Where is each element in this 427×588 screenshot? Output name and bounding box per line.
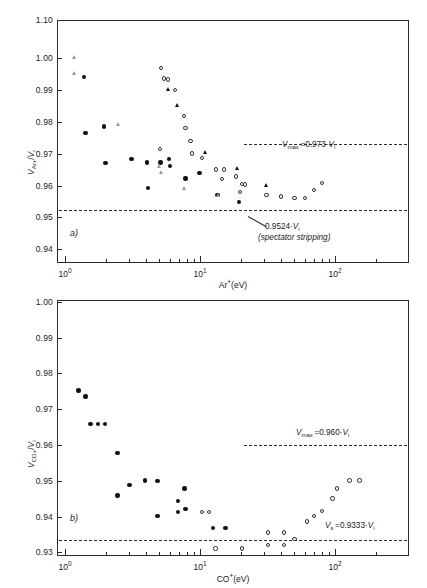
plot-frame-a: [57, 20, 409, 263]
data-point-a-open-circle-11: [222, 167, 226, 171]
data-point-a-filled-triangle-3: [235, 166, 239, 170]
data-point-b-filled-circle-16: [223, 526, 227, 530]
annotation-vs-b: Vs =0.9333·Vi: [325, 521, 374, 530]
data-point-a-open-triangle-5: [182, 186, 186, 190]
y-tick-b-7: [57, 552, 62, 553]
y-tick-label-a-7: 0.94: [9, 244, 53, 254]
y-tick-a-3: [57, 122, 62, 123]
data-point-a-open-circle-22: [320, 181, 324, 185]
data-point-a-filled-circle-4: [129, 157, 133, 161]
x-tick-b-15: [314, 552, 315, 556]
data-point-b-open-circle-4: [266, 530, 270, 534]
data-point-a-filled-triangle-4: [264, 183, 268, 187]
reference-line-b-Vs: [59, 540, 407, 541]
data-point-a-filled-circle-5: [145, 160, 149, 164]
y-tick-a-2: [57, 90, 62, 91]
x-tick-a-12: [281, 259, 282, 263]
x-tick-b-8: [194, 552, 195, 556]
data-point-a-open-circle-15: [243, 182, 247, 186]
x-tick-a-9: [200, 256, 201, 263]
x-tick-label-b-1: 101: [180, 560, 220, 572]
y-tick-label-b-2: 0.98: [9, 368, 53, 378]
x-tick-a-11: [264, 259, 265, 263]
y-tick-b-4: [57, 445, 62, 446]
x-tick-a-14: [305, 259, 306, 263]
y-tick-a-7: [57, 249, 62, 250]
data-point-a-open-triangle-2: [116, 122, 120, 126]
data-point-a-open-circle-16: [238, 190, 242, 194]
x-tick-a-16: [322, 259, 323, 263]
x-axis-title-b: CO+(eV): [183, 572, 283, 584]
x-tick-label-a-0: 100: [45, 267, 85, 279]
x-tick-a-20: [376, 259, 377, 263]
x-tick-a-6: [179, 259, 180, 263]
y-tick-label-a-3: 0.98: [9, 117, 53, 127]
data-point-a-open-triangle-4: [159, 170, 163, 174]
data-point-b-filled-circle-13: [182, 486, 186, 490]
reference-line-b-Vmax: [244, 445, 407, 446]
x-tick-b-14: [305, 552, 306, 556]
y-tick-b-1: [57, 338, 62, 339]
data-point-a-filled-circle-6: [146, 186, 150, 190]
data-point-a-filled-circle-3: [103, 161, 107, 165]
data-point-b-filled-circle-5: [115, 451, 119, 455]
data-point-b-filled-circle-0: [76, 388, 80, 392]
y-tick-b-5: [57, 481, 62, 482]
x-tick-a-2: [129, 259, 130, 263]
y-tick-b-0: [57, 302, 62, 303]
y-tick-a-4: [57, 154, 62, 155]
data-point-a-filled-triangle-0: [166, 87, 170, 91]
y-tick-label-a-5: 0.96: [9, 181, 53, 191]
x-tick-a-7: [187, 259, 188, 263]
data-point-a-open-circle-17: [264, 193, 268, 197]
y-tick-label-b-1: 0.99: [9, 333, 53, 343]
annotation-spectator-sub-a: (spectator stripping): [258, 233, 330, 242]
data-point-a-open-triangle-0: [72, 55, 76, 59]
annotation-vmax-b: Vmax =0.960·Vi: [296, 428, 349, 437]
y-tick-label-a-2: 0.99: [9, 85, 53, 95]
panel-letter-a: a): [70, 228, 78, 238]
x-tick-b-6: [179, 552, 180, 556]
data-point-b-filled-circle-1: [83, 394, 87, 398]
annotation-vmax-a: Vmax =0.973·Vi: [282, 140, 335, 149]
data-point-b-open-circle-12: [330, 496, 334, 500]
x-tick-a-18: [335, 256, 336, 263]
x-tick-b-2: [129, 552, 130, 556]
x-tick-b-1: [106, 552, 107, 556]
x-tick-b-10: [241, 552, 242, 556]
y-tick-a-0: [57, 20, 62, 21]
x-tick-b-20: [376, 552, 377, 556]
y-tick-label-a-1: 1.00: [9, 53, 53, 63]
y-tick-label-b-3: 0.97: [9, 404, 53, 414]
data-point-b-filled-circle-14: [183, 507, 187, 511]
data-point-a-open-circle-8: [200, 156, 204, 160]
x-tick-b-16: [322, 552, 323, 556]
data-point-b-open-circle-13: [335, 486, 339, 490]
reference-line-a-spectator-stripping: [59, 210, 407, 211]
y-axis-title-a: VAr+/Vi: [26, 150, 36, 175]
data-point-b-open-circle-14: [347, 478, 351, 482]
x-tick-label-a-2: 102: [315, 267, 355, 279]
y-tick-b-2: [57, 373, 62, 374]
figure-root: 1.101.000.990.980.970.960.950.9410010110…: [0, 0, 427, 588]
x-tick-a-3: [146, 259, 147, 263]
data-point-a-open-triangle-6: [216, 193, 220, 197]
x-tick-b-17: [329, 552, 330, 556]
data-point-a-filled-circle-11: [197, 171, 201, 175]
x-tick-b-18: [335, 549, 336, 556]
x-tick-label-b-2: 102: [315, 560, 355, 572]
data-point-b-open-circle-3: [240, 546, 244, 550]
data-point-a-open-circle-2: [166, 77, 170, 81]
x-tick-b-13: [294, 552, 295, 556]
x-tick-b-3: [146, 552, 147, 556]
data-point-b-filled-circle-6: [115, 493, 119, 497]
y-tick-a-6: [57, 217, 62, 218]
data-point-a-open-circle-13: [234, 174, 238, 178]
data-point-a-open-triangle-3: [157, 164, 161, 168]
x-tick-a-5: [170, 259, 171, 263]
y-tick-a-5: [57, 186, 62, 187]
y-tick-label-a-0: 1.10: [9, 15, 53, 25]
y-tick-label-b-7: 0.93: [9, 547, 53, 557]
x-tick-a-15: [314, 259, 315, 263]
y-tick-label-b-5: 0.95: [9, 476, 53, 486]
